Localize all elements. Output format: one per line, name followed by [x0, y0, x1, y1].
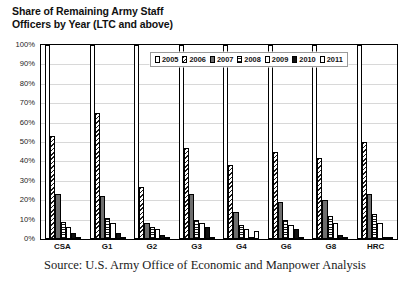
chart-title-line-2: Officers by Year (LTC and above)	[12, 18, 252, 31]
source-note: Source: U.S. Army Office of Economic and…	[0, 258, 410, 273]
x-axis-tick-label-hrc: HRC	[353, 242, 398, 256]
legend-swatch-2009	[265, 56, 270, 63]
y-axis-tick-label: 10%	[20, 214, 35, 223]
bar-group-g4	[219, 45, 264, 239]
bar-group-g2	[130, 45, 175, 239]
bar-group-hrc	[353, 45, 398, 239]
legend-item-2010: 2010	[292, 55, 315, 64]
bar-group-csa	[41, 45, 86, 239]
chart-title: Share of Remaining Army Staff Officers b…	[12, 5, 252, 30]
x-axis-tick-label-g1: G1	[85, 242, 130, 256]
legend-swatch-2010	[292, 56, 297, 63]
legend-item-2005: 2005	[155, 55, 178, 64]
bar-group-g8	[308, 45, 353, 239]
bar-group-g1	[86, 45, 131, 239]
y-axis-tick-label: 0%	[24, 234, 35, 243]
y-axis-tick-label: 30%	[20, 175, 35, 184]
plot-area	[40, 44, 398, 240]
legend-label-2008: 2008	[244, 55, 260, 64]
y-axis: 100%90%80%70%60%50%40%30%20%10%0%	[0, 44, 38, 240]
bar-g8-2011	[343, 237, 348, 239]
bar-g4-2011	[254, 231, 259, 239]
legend-item-2011: 2011	[320, 55, 343, 64]
legend-item-2009: 2009	[265, 55, 288, 64]
y-axis-tick-label: 70%	[20, 98, 35, 107]
legend-swatch-2006	[182, 56, 187, 63]
bar-csa-2011	[76, 237, 81, 239]
x-axis: CSAG1G2G3G4G6G8HRC	[40, 242, 398, 256]
y-axis-tick-label: 90%	[20, 59, 35, 68]
legend-label-2007: 2007	[217, 55, 233, 64]
bar-g1-2011	[121, 237, 126, 239]
x-axis-tick-label-g8: G8	[309, 242, 354, 256]
bar-group-g3	[175, 45, 220, 239]
y-axis-tick-label: 20%	[20, 195, 35, 204]
chart-figure: Share of Remaining Army Staff Officers b…	[0, 0, 410, 282]
chart-legend: 2005200620072008200920102011	[150, 52, 348, 67]
x-axis-tick-label-g4: G4	[219, 242, 264, 256]
legend-item-2008: 2008	[237, 55, 260, 64]
y-axis-tick-label: 80%	[20, 78, 35, 87]
legend-item-2006: 2006	[182, 55, 205, 64]
x-axis-tick-label-g3: G3	[174, 242, 219, 256]
bar-groups	[41, 45, 397, 239]
x-axis-tick-label-g6: G6	[264, 242, 309, 256]
bar-group-g6	[264, 45, 309, 239]
legend-swatch-2011	[320, 56, 325, 63]
y-axis-tick-label: 60%	[20, 117, 35, 126]
chart-title-line-1: Share of Remaining Army Staff	[12, 5, 252, 18]
x-axis-tick-label-csa: CSA	[40, 242, 85, 256]
legend-label-2005: 2005	[162, 55, 178, 64]
legend-label-2009: 2009	[272, 55, 288, 64]
y-axis-tick-label: 50%	[20, 137, 35, 146]
bar-g6-2011	[299, 237, 304, 239]
legend-label-2011: 2011	[327, 55, 343, 64]
legend-item-2007: 2007	[210, 55, 233, 64]
bar-g3-2011	[210, 237, 215, 239]
bar-g2-2011	[165, 237, 170, 239]
legend-swatch-2008	[237, 56, 242, 63]
y-axis-tick-label: 40%	[20, 156, 35, 165]
legend-swatch-2005	[155, 56, 160, 63]
legend-swatch-2007	[210, 56, 215, 63]
y-axis-tick-label: 100%	[16, 40, 35, 49]
bar-hrc-2011	[388, 237, 393, 239]
legend-label-2010: 2010	[299, 55, 315, 64]
x-axis-tick-label-g2: G2	[130, 242, 175, 256]
legend-label-2006: 2006	[189, 55, 205, 64]
